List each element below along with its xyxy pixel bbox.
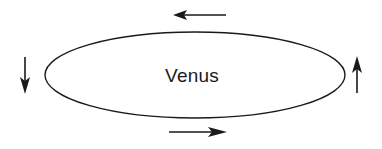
bottom-arrow-right-icon: [169, 127, 227, 137]
venus-label: Venus: [165, 65, 219, 86]
venus-diagram-canvas: Venus: [0, 0, 382, 149]
right-arrow-up-icon: [352, 56, 362, 93]
top-arrow-left-icon: [173, 10, 226, 20]
venus-diagram: Venus: [0, 0, 382, 149]
left-arrow-down-icon: [20, 57, 30, 94]
